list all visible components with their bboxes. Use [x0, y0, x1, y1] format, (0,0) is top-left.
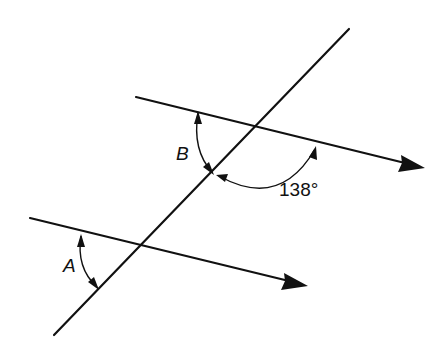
- upper-arrowhead-icon: [398, 155, 425, 172]
- lower-parallel-line: [30, 218, 308, 290]
- angle-a-arc: [77, 234, 99, 290]
- angle-b-label: B: [176, 143, 189, 164]
- geometry-diagram: B 138° A: [0, 0, 445, 357]
- angle-b-arc: [194, 111, 214, 175]
- angle-138-label: 138°: [279, 179, 318, 200]
- lower-arrowhead-icon: [281, 273, 308, 290]
- angle-a-label: A: [62, 255, 76, 276]
